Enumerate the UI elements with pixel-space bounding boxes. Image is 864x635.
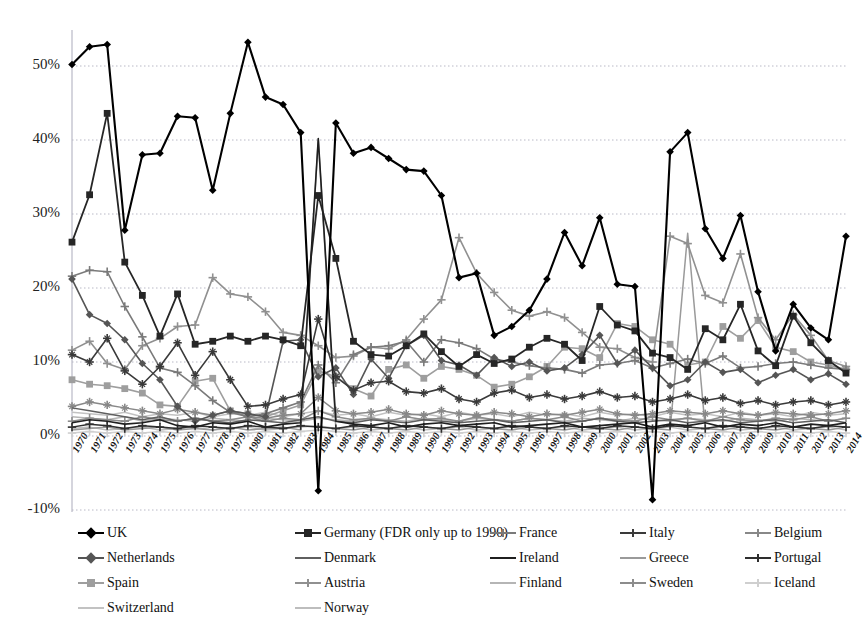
data-point-marker [561, 341, 568, 348]
data-point-marker [683, 390, 691, 398]
data-point-marker [667, 341, 674, 348]
data-point-marker [632, 328, 639, 335]
legend-marker-icon [295, 601, 321, 615]
data-point-marker [578, 392, 586, 400]
data-point-marker [69, 239, 76, 246]
data-point-marker [824, 401, 832, 409]
legend-item-ireland[interactable]: Ireland [490, 551, 559, 565]
data-point-marker [789, 358, 797, 366]
legend-item-switzerland[interactable]: Switzerland [78, 601, 174, 615]
legend-item-portugal[interactable]: Portugal [745, 551, 821, 565]
data-point-marker [455, 410, 463, 418]
series-austria [68, 232, 850, 374]
legend-marker-icon [490, 551, 516, 565]
legend-item-germany-fdr-only-up-to-1990[interactable]: Germany (FDR only up to 1990) [295, 526, 508, 540]
data-point-marker [631, 392, 639, 400]
data-point-marker [455, 339, 463, 347]
legend-item-denmark[interactable]: Denmark [295, 551, 376, 565]
legend-label: Iceland [774, 576, 815, 590]
data-point-marker [596, 214, 604, 222]
y-axis-tick-label: 0% [4, 426, 60, 443]
data-point-marker [350, 338, 357, 345]
data-point-marker [807, 376, 815, 384]
data-point-marker [103, 401, 111, 409]
y-axis-tick-label: -10% [4, 500, 60, 517]
data-point-marker [772, 362, 779, 369]
data-point-marker [368, 351, 375, 358]
data-point-marker [648, 398, 656, 406]
y-axis-tick-label: 10% [4, 352, 60, 369]
data-point-marker [842, 232, 850, 240]
data-point-marker [789, 366, 797, 374]
data-point-marker [666, 421, 674, 429]
data-point-marker [772, 372, 780, 380]
data-point-marker [807, 339, 814, 346]
legend-item-uk[interactable]: UK [78, 526, 127, 540]
data-point-marker [121, 385, 128, 392]
data-point-marker [244, 402, 252, 410]
legend-item-belgium[interactable]: Belgium [745, 526, 822, 540]
legend-item-austria[interactable]: Austria [295, 576, 365, 590]
data-point-marker [437, 384, 445, 392]
data-point-marker [789, 398, 797, 406]
legend-item-finland[interactable]: Finland [490, 576, 562, 590]
legend-label: UK [107, 526, 127, 540]
data-point-marker [245, 338, 252, 345]
data-point-marker [85, 398, 93, 406]
data-point-marker [490, 332, 498, 340]
legend-label: Germany (FDR only up to 1990) [324, 526, 508, 540]
data-point-marker [701, 291, 709, 299]
data-point-marker [649, 350, 656, 357]
legend-label: Austria [324, 576, 365, 590]
data-point-marker [280, 336, 287, 343]
data-point-marker [613, 393, 621, 401]
legend-marker-icon [745, 576, 771, 590]
data-point-marker [209, 375, 216, 382]
data-point-marker [86, 381, 93, 388]
data-point-marker [596, 354, 603, 361]
data-point-marker [104, 110, 111, 117]
data-point-marker [121, 302, 129, 310]
legend-label: Italy [649, 526, 675, 540]
data-point-marker [103, 268, 111, 276]
data-point-marker [279, 395, 287, 403]
legend-marker-icon [490, 576, 516, 590]
data-point-marker [842, 398, 850, 406]
data-point-marker [138, 407, 146, 415]
legend-item-netherlands[interactable]: Netherlands [78, 551, 175, 565]
legend-item-greece[interactable]: Greece [620, 551, 689, 565]
legend-marker-icon [78, 601, 104, 615]
data-point-marker [279, 424, 287, 432]
chart-legend: UKGermany (FDR only up to 1990)FranceIta… [0, 520, 860, 635]
data-point-marker [525, 393, 533, 401]
legend-marker-icon [745, 551, 771, 565]
legend-item-france[interactable]: France [490, 526, 557, 540]
legend-marker-icon [490, 526, 516, 540]
data-point-marker [719, 407, 727, 415]
series-line [72, 236, 846, 369]
legend-marker-icon [620, 551, 646, 565]
legend-item-sweden[interactable]: Sweden [620, 576, 693, 590]
data-point-marker [384, 424, 392, 432]
data-point-marker [437, 407, 445, 415]
data-point-marker [349, 410, 357, 418]
legend-item-norway[interactable]: Norway [295, 601, 369, 615]
y-axis-tick-label: 40% [4, 130, 60, 147]
data-point-marker [139, 292, 146, 299]
data-point-marker [314, 487, 322, 495]
data-point-marker [385, 366, 392, 373]
data-point-marker [631, 283, 639, 291]
legend-item-italy[interactable]: Italy [620, 526, 675, 540]
legend-item-spain[interactable]: Spain [78, 576, 139, 590]
data-point-marker [543, 390, 551, 398]
data-point-marker [736, 250, 744, 258]
legend-item-iceland[interactable]: Iceland [745, 576, 815, 590]
data-point-marker [104, 382, 111, 389]
data-point-marker [332, 255, 339, 262]
data-point-marker [596, 303, 603, 310]
y-axis-tick-label: 20% [4, 278, 60, 295]
data-point-marker [262, 93, 270, 101]
data-point-marker [719, 323, 726, 330]
data-point-marker [456, 363, 463, 370]
